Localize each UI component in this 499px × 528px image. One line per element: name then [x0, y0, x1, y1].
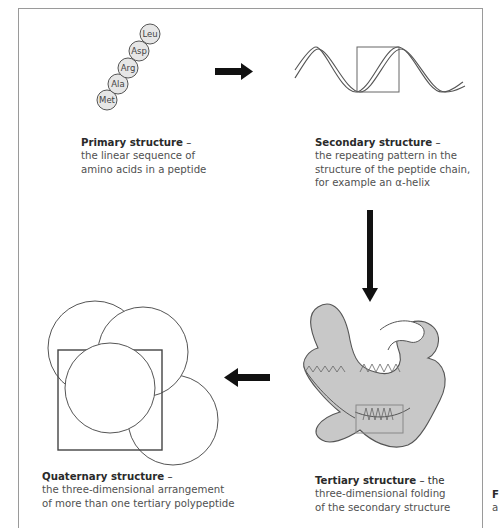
arrow-left-icon [224, 368, 270, 387]
caption-title: Primary structure [81, 137, 183, 148]
caption-line: for example an α-helix [315, 176, 470, 189]
arrow-right-icon [215, 63, 253, 80]
caption-line: amino acids in a peptide [81, 163, 206, 176]
cut-off-caption-fragment: F a [492, 488, 499, 515]
secondary-structure-caption: Secondary structure – the repeating patt… [315, 136, 470, 190]
alpha-helix-icon [295, 47, 465, 92]
caption-title: Secondary structure [315, 137, 432, 148]
caption-title: Quaternary structure [42, 471, 164, 482]
arrow-down-icon [362, 210, 378, 302]
caption-title: Tertiary structure [315, 475, 416, 486]
residue-arg: Arg [118, 58, 138, 78]
residue-leu: Leu [140, 24, 160, 44]
quaternary-structure-caption: Quaternary structure – the three-dimensi… [42, 470, 235, 510]
caption-line: the three-dimensional arrangement [42, 483, 235, 496]
residue-label: Arg [121, 63, 136, 73]
caption-line: of the secondary structure [315, 501, 450, 514]
tertiary-fold-icon [304, 304, 445, 447]
caption-line: of more than one tertiary polypeptide [42, 497, 235, 510]
quaternary-assembly-icon [48, 301, 218, 465]
residue-label: Ala [111, 79, 124, 89]
residue-label: Met [99, 95, 116, 105]
caption-line: the repeating pattern in the [315, 149, 470, 162]
amino-acid-chain: Met Ala Arg Asp Leu [97, 24, 160, 110]
residue-label: Leu [142, 29, 157, 39]
caption-line: structure of the peptide chain, [315, 163, 470, 176]
residue-label: Asp [131, 46, 147, 56]
residue-asp: Asp [129, 41, 149, 61]
caption-line: three-dimensional folding [315, 487, 450, 500]
tertiary-structure-caption: Tertiary structure – the three-dimension… [315, 474, 450, 514]
caption-line: the linear sequence of [81, 149, 206, 162]
primary-structure-caption: Primary structure – the linear sequence … [81, 136, 206, 176]
